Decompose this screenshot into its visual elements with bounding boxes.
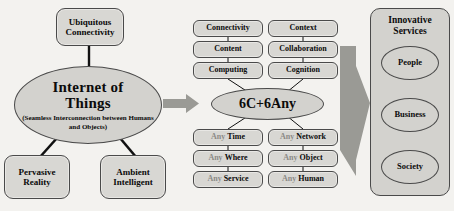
innovative-services-title: Innovative Services: [370, 12, 450, 40]
six-any-label: Any Human: [282, 175, 324, 184]
ambient-intelligent-box[interactable]: Ambient Intelligent: [100, 155, 166, 199]
service-ellipse-business[interactable]: Business: [381, 98, 439, 132]
six-any-label: Any Where: [208, 154, 247, 163]
ambient-intelligent-label: Ambient Intelligent: [113, 167, 153, 187]
six-c-label: Content: [214, 45, 242, 54]
six-any-box-any-network[interactable]: Any Network: [268, 129, 338, 146]
six-c-label: Computing: [209, 66, 248, 75]
internet-of-things-ellipse[interactable]: Internet of Things (Seamless Interconnec…: [14, 66, 162, 144]
ubiquitous-connectivity-box[interactable]: Ubiquitous Connectivity: [56, 8, 124, 46]
iot-subtitle: (Seamless Interconnection between Humans…: [15, 114, 161, 131]
six-any-label: Any Network: [280, 133, 326, 142]
service-label: Business: [394, 110, 425, 119]
service-label: Society: [397, 162, 423, 171]
pervasive-reality-label: Pervasive Reality: [19, 167, 56, 187]
six-c-label: Cognition: [286, 66, 320, 75]
iot-title: Internet of Things: [53, 79, 124, 112]
six-c-box-computing[interactable]: Computing: [193, 62, 263, 79]
arrow-right-large-icon: [340, 46, 370, 176]
six-any-box-any-human[interactable]: Any Human: [268, 171, 338, 188]
six-c-six-any-ellipse[interactable]: 6C+6Any: [211, 88, 324, 120]
six-any-box-any-where[interactable]: Any Where: [193, 150, 263, 167]
six-c-label: Context: [289, 24, 316, 33]
six-any-box-any-time[interactable]: Any Time: [193, 129, 263, 146]
ubiquitous-connectivity-label: Ubiquitous Connectivity: [66, 17, 115, 37]
six-any-box-any-service[interactable]: Any Service: [193, 171, 263, 188]
diagram-canvas: Ubiquitous Connectivity Internet of Thin…: [0, 0, 454, 211]
six-c-box-connectivity[interactable]: Connectivity: [193, 20, 263, 37]
core-label: 6C+6Any: [239, 96, 296, 111]
service-ellipse-people[interactable]: People: [381, 46, 439, 80]
six-c-label: Collaboration: [279, 45, 327, 54]
service-label: People: [398, 58, 422, 67]
six-c-box-cognition[interactable]: Cognition: [268, 62, 338, 79]
six-c-box-context[interactable]: Context: [268, 20, 338, 37]
six-any-label: Any Service: [207, 175, 248, 184]
six-c-label: Connectivity: [206, 24, 250, 33]
service-ellipse-society[interactable]: Society: [381, 150, 439, 184]
six-any-box-any-object[interactable]: Any Object: [268, 150, 338, 167]
six-c-box-content[interactable]: Content: [193, 41, 263, 58]
six-any-label: Any Object: [283, 154, 322, 163]
arrow-right-small-icon: [163, 94, 199, 113]
pervasive-reality-box[interactable]: Pervasive Reality: [4, 155, 70, 199]
six-c-box-collaboration[interactable]: Collaboration: [268, 41, 338, 58]
six-any-label: Any Time: [211, 133, 245, 142]
